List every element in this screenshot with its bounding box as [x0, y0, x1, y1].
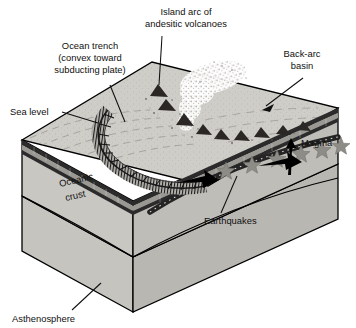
- diagram-canvas: Island arc of andesitic volcanoes Ocean …: [0, 0, 356, 328]
- label-asthenosphere: Asthenosphere: [12, 313, 75, 324]
- block-diagram: Island arc of andesitic volcanoes Ocean …: [0, 0, 356, 328]
- label-island-arc-line2: andesitic volcanoes: [145, 18, 227, 29]
- label-ocean-trench-line3: subducting plate): [54, 64, 125, 75]
- label-earthquakes: Earthquakes: [204, 215, 257, 226]
- label-back-arc-line1: Back-arc: [284, 48, 321, 59]
- label-sea-level: Sea level: [10, 106, 49, 117]
- label-back-arc-line2: basin: [291, 60, 313, 71]
- label-magma: Magma: [301, 137, 333, 148]
- label-island-arc-line1: Island arc of: [160, 6, 211, 17]
- label-ocean-trench-line1: Ocean trench: [62, 40, 118, 51]
- label-ocean-trench-line2: (convex toward: [58, 52, 122, 63]
